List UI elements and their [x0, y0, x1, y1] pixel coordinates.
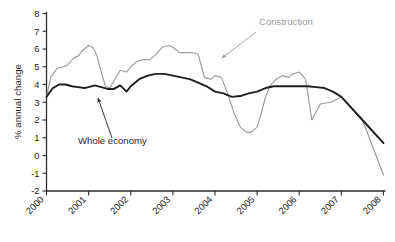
x-tick-label: 2000 — [24, 194, 46, 216]
whole-economy-annotation-arrow — [98, 98, 112, 138]
whole-economy-annotation-text: Whole economy — [78, 135, 147, 146]
data-series-group — [47, 45, 384, 175]
y-tick-label: 2 — [34, 115, 39, 125]
y-tick-label: -1 — [31, 169, 39, 179]
y-tick-label: 5 — [34, 62, 39, 72]
x-tick-label: 2002 — [108, 194, 130, 216]
x-tick-label: 2006 — [277, 194, 299, 216]
chart-container: % annual change 876543210-1-2 2000200120… — [0, 0, 395, 242]
line-chart-svg: 876543210-1-2 20002001200220032004200520… — [0, 0, 395, 242]
x-tick-label: 2001 — [66, 194, 88, 216]
y-tick-label: 3 — [34, 98, 39, 108]
y-tick-label: 8 — [34, 9, 39, 19]
y-tick-label: 1 — [34, 133, 39, 143]
y-tick-label: 7 — [34, 27, 39, 37]
series-line-construction — [47, 45, 384, 175]
y-tick-label: 6 — [34, 44, 39, 54]
x-axis-ticks: 200020012002200320042005200620072008 — [24, 191, 383, 216]
y-axis-ticks: 876543210-1-2 — [31, 9, 46, 197]
x-tick-label: 2007 — [319, 194, 341, 216]
series-line-whole-economy — [47, 74, 384, 143]
y-tick-label: 0 — [34, 151, 39, 161]
y-tick-label: 4 — [34, 80, 39, 90]
construction-annotation-text: Construction — [259, 16, 313, 27]
x-tick-label: 2003 — [151, 194, 173, 216]
x-tick-label: 2004 — [193, 194, 215, 216]
x-tick-label: 2005 — [235, 194, 257, 216]
construction-annotation-arrow — [222, 32, 256, 58]
x-tick-label: 2008 — [361, 194, 383, 216]
